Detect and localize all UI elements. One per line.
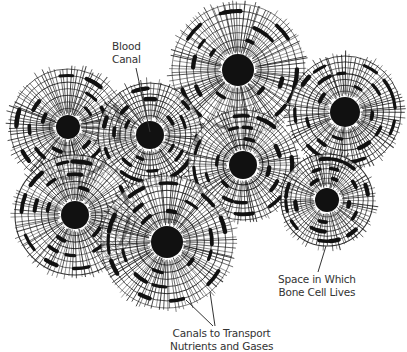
lacuna-icon — [245, 139, 253, 141]
lacuna-icon — [320, 221, 326, 222]
lacuna-icon — [239, 213, 253, 214]
lacuna-icon — [43, 114, 46, 121]
central-canal — [229, 151, 257, 179]
canals-transport-label-line2: Nutrients and Gases — [170, 340, 273, 352]
lacuna-icon — [268, 167, 270, 174]
lacuna-icon — [307, 119, 309, 127]
central-canal — [151, 226, 183, 258]
lacuna-icon — [80, 188, 88, 191]
lacuna-icon — [295, 202, 296, 210]
lacuna-icon — [160, 183, 177, 184]
lacuna-icon — [365, 185, 367, 194]
lacuna-icon — [35, 200, 37, 210]
lacuna-icon — [168, 211, 175, 212]
lacuna-icon — [60, 75, 73, 76]
lacuna-icon — [348, 202, 349, 206]
blood-canal-label-line1: Blood — [112, 40, 141, 53]
lacuna-icon — [280, 79, 282, 87]
lacuna-icon — [171, 299, 184, 301]
lacuna-icon — [66, 255, 75, 256]
lacuna-icon — [286, 201, 288, 211]
lacuna-icon — [321, 159, 330, 160]
lacuna-icon — [108, 235, 109, 253]
lacuna-icon — [48, 204, 50, 211]
central-canal — [136, 121, 164, 149]
lacuna-icon — [235, 202, 246, 203]
central-canal — [315, 188, 339, 212]
lacuna-icon — [295, 109, 296, 122]
lacuna-icon — [137, 157, 142, 159]
bone-cell-space-label: Space in Which Bone Cell Lives — [278, 273, 356, 299]
lacuna-icon — [73, 161, 90, 163]
blood-canal-label-line2: Canal — [112, 53, 141, 66]
lacuna-icon — [243, 127, 251, 128]
central-canal — [61, 201, 89, 229]
bone-cell-space-label-line2: Bone Cell Lives — [278, 286, 356, 299]
lacuna-icon — [230, 128, 238, 130]
lacuna-icon — [247, 40, 253, 42]
lacuna-icon — [69, 174, 82, 175]
lacuna-icon — [217, 157, 218, 165]
lacuna-icon — [148, 170, 157, 171]
lacuna-icon — [29, 126, 30, 134]
lacuna-icon — [17, 110, 20, 123]
central-canal — [56, 115, 80, 139]
lacuna-icon — [114, 128, 115, 136]
canals-transport-label: Canals to Transport Nutrients and Gases — [170, 327, 273, 352]
bone-cell-space-label-line1: Space in Which — [278, 273, 356, 286]
osteon-diagram — [0, 0, 407, 352]
pointer-line-bone_cell_space — [318, 246, 326, 272]
osteon-group — [6, 1, 406, 312]
lacuna-icon — [193, 57, 195, 68]
lacuna-icon — [333, 179, 337, 180]
lacuna-icon — [292, 157, 293, 170]
canals-transport-label-line1: Canals to Transport — [170, 327, 273, 340]
lacuna-icon — [104, 118, 107, 127]
pointer-line-canals_transport — [186, 300, 213, 326]
lacuna-icon — [234, 116, 248, 117]
pointer-line-canals_transport — [210, 292, 215, 326]
lacuna-icon — [319, 241, 333, 242]
central-canal — [222, 54, 254, 86]
blood-canal-label: Blood Canal — [112, 40, 141, 66]
lacuna-icon — [210, 230, 212, 245]
lacuna-icon — [313, 169, 319, 171]
lacuna-icon — [338, 73, 345, 74]
lacuna-icon — [74, 267, 89, 269]
central-canal — [330, 97, 360, 127]
lacuna-icon — [371, 113, 372, 119]
lacuna-icon — [331, 169, 338, 171]
